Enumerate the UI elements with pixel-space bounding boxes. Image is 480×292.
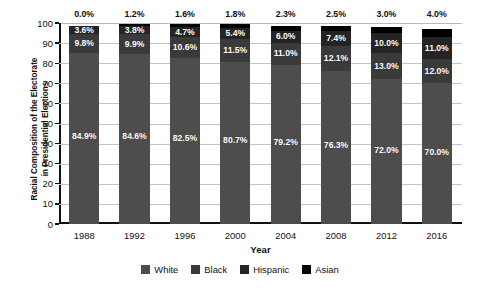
- x-axis-tick-label: 1988: [74, 230, 95, 241]
- bar-segment-label: 76.3%: [324, 141, 348, 150]
- y-axis-tick-label: 40: [43, 139, 53, 148]
- bar-segment-label: 10.0%: [374, 39, 398, 48]
- legend-label: Black: [204, 265, 227, 274]
- bar-segment-label: 70.0%: [425, 148, 449, 157]
- asian-value-label: 1.2%: [125, 9, 145, 19]
- bar-segment-white[interactable]: 72.0%: [371, 79, 401, 224]
- y-axis-tick-label: 100: [37, 19, 53, 28]
- bar-segment-label: 12.1%: [324, 54, 348, 63]
- bar-segment-asian[interactable]: 2.5%: [321, 26, 351, 31]
- bar-segment-asian[interactable]: 1.6%: [170, 24, 200, 27]
- bar-segment-white[interactable]: 79.2%: [271, 65, 301, 224]
- legend-label: Asian: [315, 265, 338, 274]
- bar-segment-black[interactable]: 9.8%: [69, 34, 99, 54]
- bar-column[interactable]: 76.3%12.1%7.4%2.5%2.5%2008: [321, 23, 351, 224]
- bar-segment-black[interactable]: 11.5%: [220, 39, 250, 62]
- bar-column[interactable]: 84.9%9.8%3.6%0.0%0.0%1988: [69, 23, 99, 224]
- y-axis-tick-label: 20: [43, 179, 53, 188]
- bar-segment-label: 3.6%: [74, 26, 94, 35]
- bar-segment-hispanic[interactable]: 6.0%: [271, 31, 301, 43]
- legend-label: White: [154, 265, 178, 274]
- bar-segment-label: 3.8%: [125, 26, 145, 35]
- bar-segment-label: 11.5%: [223, 46, 247, 55]
- bar-stack: 72.0%13.0%10.0%3.0%: [371, 23, 401, 224]
- bar-stack: 80.7%11.5%5.4%1.8%: [220, 23, 250, 224]
- bar-segment-white[interactable]: 84.6%: [119, 54, 149, 224]
- bar-segment-label: 84.6%: [122, 132, 146, 141]
- bar-segment-label: 12.0%: [425, 67, 449, 76]
- legend-item-black[interactable]: Black: [191, 265, 227, 274]
- bar-segment-asian[interactable]: 4.0%: [422, 29, 452, 37]
- bar-segment-hispanic[interactable]: 3.8%: [119, 26, 149, 34]
- bar-segment-asian[interactable]: 1.2%: [119, 24, 149, 26]
- bar-segment-black[interactable]: 12.0%: [422, 59, 452, 83]
- bar-column[interactable]: 82.5%10.6%4.7%1.6%1.6%1996: [170, 23, 200, 224]
- bar-stack: 84.9%9.8%3.6%0.0%: [69, 23, 99, 224]
- bar-stack: 84.6%9.9%3.8%1.2%: [119, 23, 149, 224]
- bar-segment-hispanic[interactable]: 4.7%: [170, 27, 200, 36]
- asian-value-label: 0.0%: [74, 9, 94, 19]
- bar-stack: 82.5%10.6%4.7%1.6%: [170, 23, 200, 224]
- bar-segment-black[interactable]: 10.6%: [170, 37, 200, 58]
- bar-segment-hispanic[interactable]: 10.0%: [371, 33, 401, 53]
- bar-segment-label: 7.4%: [326, 34, 346, 43]
- chart-legend: WhiteBlackHispanicAsian: [0, 265, 480, 274]
- legend-item-white[interactable]: White: [141, 265, 178, 274]
- x-axis-tick-label: 2004: [275, 230, 296, 241]
- bar-stack: 70.0%12.0%11.0%4.0%: [422, 23, 452, 224]
- bar-segment-hispanic[interactable]: 11.0%: [422, 37, 452, 59]
- x-axis-tick-label: 2012: [376, 230, 397, 241]
- legend-item-asian[interactable]: Asian: [302, 265, 338, 274]
- bar-column[interactable]: 70.0%12.0%11.0%4.0%4.0%2016: [422, 23, 452, 224]
- bar-segment-label: 11.0%: [274, 49, 298, 58]
- bar-segment-hispanic[interactable]: 7.4%: [321, 31, 351, 46]
- bar-segment-white[interactable]: 84.9%: [69, 53, 99, 224]
- bar-segment-black[interactable]: 12.1%: [321, 46, 351, 70]
- y-axis-tick-label: 70: [43, 79, 53, 88]
- x-axis-tick-label: 1996: [174, 230, 195, 241]
- bar-segment-label: 9.9%: [125, 40, 145, 49]
- asian-value-label: 2.5%: [326, 9, 346, 19]
- bar-segment-asian[interactable]: 2.3%: [271, 26, 301, 31]
- asian-value-label: 1.6%: [175, 9, 195, 19]
- asian-value-label: 2.3%: [276, 9, 296, 19]
- bar-segment-white[interactable]: 70.0%: [422, 83, 452, 224]
- bar-segment-label: 10.6%: [173, 43, 197, 52]
- bar-segment-asian[interactable]: 3.0%: [371, 27, 401, 33]
- bar-segment-asian[interactable]: 1.8%: [220, 24, 250, 28]
- y-axis-tick-label: 30: [43, 159, 53, 168]
- bar-segment-white[interactable]: 80.7%: [220, 62, 250, 224]
- legend-label: Hispanic: [253, 265, 289, 274]
- asian-value-label: 1.8%: [225, 9, 245, 19]
- bar-segment-hispanic[interactable]: 3.6%: [69, 26, 99, 33]
- y-axis-tick-label: 60: [43, 99, 53, 108]
- chart-root: Racial Composition of the Electorate in …: [0, 0, 480, 292]
- plot-area: 0102030405060708090100 84.9%9.8%3.6%0.0%…: [59, 23, 462, 224]
- bar-segment-white[interactable]: 76.3%: [321, 71, 351, 224]
- bar-segment-white[interactable]: 82.5%: [170, 58, 200, 224]
- bar-segment-label: 13.0%: [374, 62, 398, 71]
- bar-stack: 76.3%12.1%7.4%2.5%: [321, 23, 351, 224]
- bar-segment-label: 6.0%: [276, 32, 296, 41]
- y-axis-title-line-1: Racial Composition of the Electorate: [29, 23, 40, 235]
- bar-segment-hispanic[interactable]: 5.4%: [220, 28, 250, 39]
- bar-segment-label: 72.0%: [374, 146, 398, 155]
- legend-item-hispanic[interactable]: Hispanic: [240, 265, 289, 274]
- y-axis-tick-label: 0: [48, 220, 53, 229]
- bar-column[interactable]: 80.7%11.5%5.4%1.8%1.8%2000: [220, 23, 250, 224]
- bar-column[interactable]: 72.0%13.0%10.0%3.0%3.0%2012: [371, 23, 401, 224]
- bar-column[interactable]: 84.6%9.9%3.8%1.2%1.2%1992: [119, 23, 149, 224]
- y-axis-tick-label: 10: [43, 199, 53, 208]
- bar-segment-black[interactable]: 11.0%: [271, 43, 301, 65]
- bar-column[interactable]: 79.2%11.0%6.0%2.3%2.3%2004: [271, 23, 301, 224]
- cut-off-header-text: [6, 0, 96, 6]
- asian-value-label: 3.0%: [376, 9, 396, 19]
- bar-segment-black[interactable]: 9.9%: [119, 34, 149, 54]
- legend-swatch-icon: [240, 265, 249, 274]
- x-axis-tick-label: 2016: [426, 230, 447, 241]
- y-axis-tick-label: 90: [43, 39, 53, 48]
- bar-series-layer: 84.9%9.8%3.6%0.0%0.0%198884.6%9.9%3.8%1.…: [59, 23, 462, 224]
- x-axis-tick-label: 2008: [326, 230, 347, 241]
- bar-segment-label: 4.7%: [175, 28, 195, 37]
- bar-segment-black[interactable]: 13.0%: [371, 53, 401, 79]
